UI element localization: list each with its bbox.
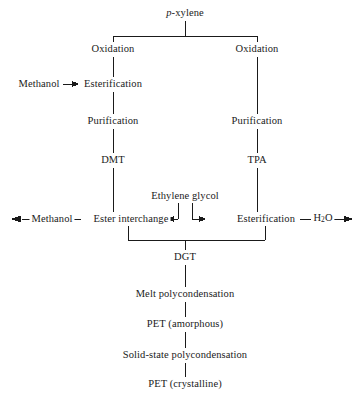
node-methanol-output: Methanol [29,213,74,225]
node-purification-right: Purification [230,115,285,127]
node-purification-left: Purification [86,115,141,127]
node-p-xylene: p-xylene [164,7,206,19]
node-ester-interchange: Ester interchange [92,213,171,225]
node-solid-state-polycondensation: Solid-state polycondensation [121,349,249,361]
edge-pxylene-split [113,21,257,42]
edge-methanol-to-esterification [63,82,78,86]
node-p-xylene-label: -xylene [172,7,204,18]
node-pet-crystalline: PET (crystalline) [146,378,224,390]
node-water-output: H2O [311,212,334,227]
node-oxidation-right: Oxidation [234,43,281,55]
node-water-suffix: O [325,212,333,223]
node-water-symbol: H [313,212,321,223]
edge-glycol-to-esterification [192,203,205,221]
node-dmt: DMT [99,154,127,166]
node-tpa: TPA [245,154,268,166]
node-esterification-right: Esterification [235,213,297,225]
edge-merge-to-dgt [128,226,265,250]
node-melt-polycondensation: Melt polycondensation [134,288,237,300]
process-flow-diagram: p-xylene Oxidation Oxidation Methanol Es… [0,0,360,394]
node-dgt: DGT [172,251,198,263]
node-methanol-input: Methanol [16,78,61,90]
node-pet-amorphous: PET (amorphous) [145,318,225,330]
node-esterification-left: Esterification [82,78,144,90]
node-ethylene-glycol: Ethylene glycol [149,190,221,202]
node-oxidation-left: Oxidation [90,43,137,55]
